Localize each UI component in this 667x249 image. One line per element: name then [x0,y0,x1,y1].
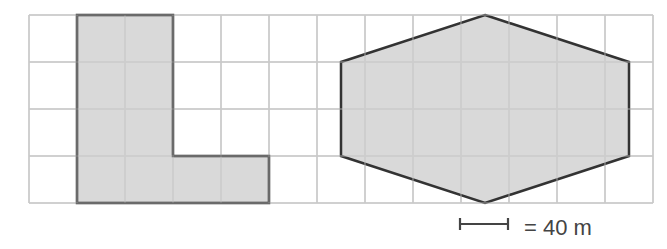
scale-label: = 40 m [524,215,592,241]
diagram-canvas [0,0,667,249]
scale-bar-icon [460,218,508,230]
